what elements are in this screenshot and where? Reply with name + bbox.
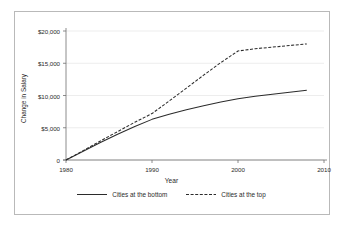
legend-swatch-solid-icon — [77, 191, 107, 198]
y-tick-label: $15,000 — [0, 60, 60, 67]
y-tick-label: 0 — [0, 157, 60, 164]
legend-swatch-dashed-icon — [186, 191, 216, 198]
chart-legend: Cities at the bottomCities at the top — [0, 191, 343, 198]
legend-entry-2[interactable]: Cities at the top — [186, 191, 265, 198]
tick-marks — [63, 31, 324, 163]
y-tick-label: $20,000 — [0, 28, 60, 35]
legend-entry-1[interactable]: Cities at the bottom — [77, 191, 167, 198]
legend-label: Cities at the bottom — [112, 191, 167, 198]
legend-label: Cities at the top — [221, 191, 265, 198]
x-tick-label: 1980 — [59, 166, 73, 173]
data-series-group — [66, 44, 307, 160]
x-tick-label: 2000 — [231, 166, 245, 173]
y-tick-label: $5,000 — [0, 124, 60, 131]
series-line-1 — [66, 90, 307, 160]
x-tick-label: 2010 — [317, 166, 331, 173]
series-line-2 — [66, 44, 307, 160]
chart-figure: 0$5,000$10,000$15,000$20,000 19801990200… — [0, 0, 343, 227]
x-tick-label: 1990 — [145, 166, 159, 173]
y-axis-title: Change in Salary — [20, 44, 27, 154]
x-axis-title: Year — [0, 177, 343, 184]
y-tick-label: $10,000 — [0, 92, 60, 99]
